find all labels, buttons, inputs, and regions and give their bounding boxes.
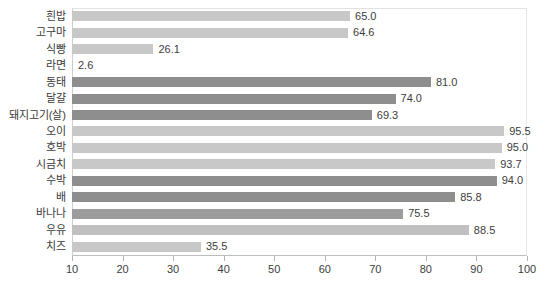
- x-axis-tick: [476, 256, 477, 261]
- bar-row: 호박95.0: [0, 140, 549, 156]
- x-axis-tick-label: 90: [470, 263, 482, 275]
- bar-row: 동태81.0: [0, 74, 549, 90]
- bar-row: 오이95.5: [0, 123, 549, 139]
- bar-with-value: 26.1: [72, 41, 180, 57]
- bar: [72, 77, 431, 87]
- bar-with-value: 74.0: [72, 90, 422, 106]
- category-label: 달걀: [0, 92, 66, 105]
- bar-with-value: 93.7: [72, 156, 522, 172]
- bar-row: 달걀74.0: [0, 90, 549, 106]
- bar-row: 라면2.6: [0, 57, 549, 73]
- category-label: 바나나: [0, 207, 66, 220]
- x-axis-tick: [224, 256, 225, 261]
- bar-row: 시금치93.7: [0, 156, 549, 172]
- bar-with-value: 94.0: [72, 173, 523, 189]
- bar: [72, 44, 153, 54]
- x-axis-tick: [375, 256, 376, 261]
- x-axis-tick-label: 70: [369, 263, 381, 275]
- bar-value-label: 26.1: [158, 44, 179, 55]
- category-label: 고구마: [0, 26, 66, 39]
- bar: [72, 225, 469, 235]
- category-label: 배: [0, 191, 66, 204]
- bar-with-value: 85.8: [72, 189, 482, 205]
- bar-with-value: 88.5: [72, 222, 495, 238]
- category-label: 라면: [0, 59, 66, 72]
- bar: [72, 28, 348, 38]
- bar-with-value: 81.0: [72, 74, 457, 90]
- bar: [72, 192, 455, 202]
- x-axis-tick: [527, 256, 528, 261]
- category-label: 시금치: [0, 158, 66, 171]
- bar-row: 고구마64.6: [0, 24, 549, 40]
- bar-value-label: 95.5: [509, 126, 530, 137]
- x-axis-tick: [72, 256, 73, 261]
- bar-value-label: 75.5: [408, 208, 429, 219]
- x-axis-tick-label: 60: [319, 263, 331, 275]
- category-label: 돼지고기(살): [0, 109, 66, 122]
- bar-value-label: 93.7: [500, 159, 521, 170]
- bar: [72, 242, 201, 252]
- x-axis-tick-label: 30: [167, 263, 179, 275]
- x-axis-tick: [274, 256, 275, 261]
- category-label: 동태: [0, 76, 66, 89]
- x-axis-tick-label: 100: [518, 263, 536, 275]
- bar-value-label: 81.0: [436, 77, 457, 88]
- bar-rows-container: 흰밥65.0고구마64.6식빵26.1라면2.6동태81.0달걀74.0돼지고기…: [0, 8, 549, 255]
- bar-row: 치즈35.5: [0, 239, 549, 255]
- bar-value-label: 85.8: [460, 192, 481, 203]
- x-axis-tick: [426, 256, 427, 261]
- bar-with-value: 69.3: [72, 107, 398, 123]
- bar: [72, 176, 497, 186]
- bar-row: 돼지고기(살)69.3: [0, 107, 549, 123]
- bar: [72, 110, 372, 120]
- x-axis-tick-label: 40: [218, 263, 230, 275]
- bar: [72, 126, 504, 136]
- bar: [72, 94, 396, 104]
- bar-value-label: 64.6: [353, 27, 374, 38]
- bar-row: 배85.8: [0, 189, 549, 205]
- x-axis-tick: [325, 256, 326, 261]
- bar-value-label: 95.0: [507, 142, 528, 153]
- bar-with-value: 95.5: [72, 123, 531, 139]
- x-axis: 102030405060708090100: [72, 256, 527, 286]
- bar-value-label: 2.6: [78, 60, 93, 71]
- category-label: 흰밥: [0, 10, 66, 23]
- category-label: 오이: [0, 125, 66, 138]
- bar-value-label: 88.5: [474, 225, 495, 236]
- x-axis-tick-label: 50: [268, 263, 280, 275]
- bar-with-value: 75.5: [72, 206, 430, 222]
- x-axis-tick: [173, 256, 174, 261]
- bar-value-label: 94.0: [502, 175, 523, 186]
- bar-row: 흰밥65.0: [0, 8, 549, 24]
- bar-row: 바나나75.5: [0, 206, 549, 222]
- x-axis-tick: [123, 256, 124, 261]
- bar-value-label: 69.3: [377, 110, 398, 121]
- bar: [72, 61, 73, 71]
- category-label: 치즈: [0, 240, 66, 253]
- category-label: 식빵: [0, 43, 66, 56]
- x-axis-tick-label: 10: [66, 263, 78, 275]
- x-axis-tick-label: 80: [420, 263, 432, 275]
- bar-value-label: 74.0: [401, 93, 422, 104]
- bar: [72, 143, 502, 153]
- bar: [72, 159, 495, 169]
- bar-row: 식빵26.1: [0, 41, 549, 57]
- bar-with-value: 64.6: [72, 24, 374, 40]
- bar-with-value: 35.5: [72, 239, 227, 255]
- category-label: 호박: [0, 141, 66, 154]
- bar-value-label: 35.5: [206, 241, 227, 252]
- bar-with-value: 2.6: [72, 57, 93, 73]
- category-label: 수박: [0, 174, 66, 187]
- bar-with-value: 95.0: [72, 140, 528, 156]
- bar-with-value: 65.0: [72, 8, 376, 24]
- bar: [72, 209, 403, 219]
- bar: [72, 11, 350, 21]
- bar-value-label: 65.0: [355, 11, 376, 22]
- bar-row: 우유88.5: [0, 222, 549, 238]
- bar-chart: 흰밥65.0고구마64.6식빵26.1라면2.6동태81.0달걀74.0돼지고기…: [0, 0, 549, 297]
- bar-row: 수박94.0: [0, 173, 549, 189]
- category-label: 우유: [0, 224, 66, 237]
- x-axis-tick-label: 20: [116, 263, 128, 275]
